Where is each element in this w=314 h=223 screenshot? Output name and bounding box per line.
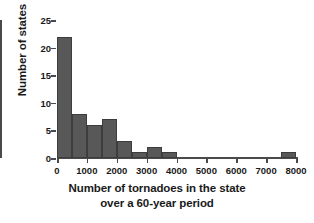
x-axis-tick-label: 4000 — [166, 165, 187, 176]
x-axis-tick — [87, 158, 89, 163]
x-axis-tick — [57, 158, 59, 163]
x-axis-tick-labels: 010002000300040005000600070008000 — [57, 165, 298, 179]
y-axis-tick-label: 20 — [40, 42, 51, 53]
y-axis-tick — [51, 48, 56, 50]
x-axis-tick-label: 6000 — [226, 165, 247, 176]
y-axis-tick-labels: 0510152025 — [30, 20, 51, 158]
x-axis-tick-label: 2000 — [106, 165, 127, 176]
y-axis-tick — [51, 75, 56, 77]
y-axis-tick — [51, 103, 56, 105]
y-axis-tick — [51, 20, 56, 22]
x-axis-title-line-2: over a 60-year period — [0, 196, 314, 211]
histogram-chart: Number of states 0510152025 010002000300… — [0, 0, 314, 223]
x-axis-title-line-1: Number of tornadoes in the state — [0, 181, 314, 196]
y-axis-tick-label: 25 — [40, 15, 51, 26]
histogram-bar — [117, 141, 132, 158]
y-axis-line — [0, 20, 2, 158]
x-axis-tick — [177, 158, 179, 163]
x-axis-tick-label: 5000 — [196, 165, 217, 176]
histogram-bar — [72, 114, 87, 158]
x-axis-tick — [147, 158, 149, 163]
x-axis-tick-label: 3000 — [136, 165, 157, 176]
x-axis-tick-label: 8000 — [285, 165, 306, 176]
x-axis-tick-label: 1000 — [76, 165, 97, 176]
y-axis-tick-label: 10 — [40, 97, 51, 108]
x-axis-tick — [266, 158, 268, 163]
x-axis-tick — [236, 158, 238, 163]
y-axis-title: Number of states — [16, 0, 28, 116]
histogram-bar — [87, 125, 102, 158]
x-axis-ticks — [57, 158, 298, 164]
histogram-bar — [57, 37, 72, 158]
x-axis-tick-label: 7000 — [256, 165, 277, 176]
x-axis-tick — [296, 158, 298, 163]
histogram-bar — [147, 147, 162, 158]
y-axis-tick — [51, 130, 56, 132]
x-axis-tick — [117, 158, 119, 163]
plot-area — [57, 20, 296, 158]
y-axis-tick — [51, 158, 56, 160]
x-axis-title: Number of tornadoes in the state over a … — [0, 181, 314, 211]
y-axis-tick-label: 15 — [40, 70, 51, 81]
histogram-bar — [102, 119, 117, 158]
x-axis-tick-label: 0 — [54, 165, 59, 176]
x-axis-tick — [206, 158, 208, 163]
